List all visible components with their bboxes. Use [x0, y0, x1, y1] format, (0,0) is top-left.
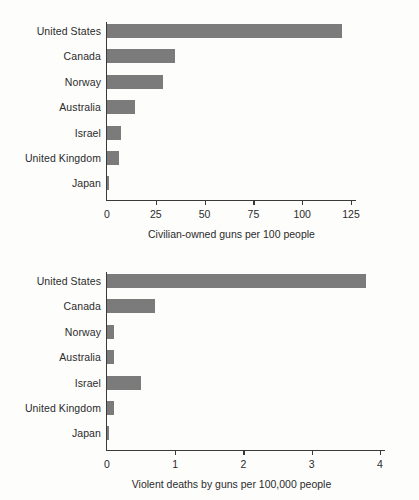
axis-tick: [312, 451, 313, 455]
axis-tick-label: 125: [342, 208, 360, 220]
category-label: United States: [37, 24, 101, 38]
plot-area-top: United StatesCanadaNorwayAustraliaIsrael…: [0, 22, 419, 230]
axis-tick: [253, 201, 254, 205]
axis-tick-label: 0: [104, 458, 110, 470]
axis-tick: [175, 451, 176, 455]
category-label: Japan: [72, 426, 101, 440]
axis-tick: [243, 451, 244, 455]
axis-tick: [380, 451, 381, 455]
bar: [107, 126, 121, 140]
axis-tick-label: 50: [199, 208, 211, 220]
bar: [107, 325, 114, 339]
chart-violent-gun-deaths: United StatesCanadaNorwayAustraliaIsrael…: [0, 250, 419, 500]
category-axis-line-top: [106, 200, 356, 201]
chart-civilian-owned-guns: United StatesCanadaNorwayAustraliaIsrael…: [0, 0, 419, 250]
axis-tick-label: 75: [248, 208, 260, 220]
axis-title-bottom-text: Violent deaths by guns per 100,000 peopl…: [88, 478, 331, 490]
axis-tick-label: 3: [309, 458, 315, 470]
axis-tick-label: 0: [104, 208, 110, 220]
bar: [107, 49, 175, 63]
bar: [107, 75, 163, 89]
axis-tick-label: 100: [293, 208, 311, 220]
bar: [107, 100, 135, 114]
chart-page: { "figure": { "background_color": "#fdfd…: [0, 0, 419, 500]
category-label: Norway: [65, 325, 101, 339]
category-label: Norway: [65, 75, 101, 89]
category-label: Canada: [64, 49, 101, 63]
category-label: Canada: [64, 299, 101, 313]
axis-tick-label: 2: [240, 458, 246, 470]
value-axis-line-bottom: [106, 272, 107, 451]
category-label: Australia: [59, 350, 101, 364]
axis-tick-label: 4: [377, 458, 383, 470]
bar: [107, 401, 114, 415]
category-axis-line-bottom: [106, 450, 385, 451]
value-axis-line-top: [106, 22, 107, 201]
axis-tick-label: 25: [150, 208, 162, 220]
axis-title-top: Civilian-owned guns per 100 people: [0, 228, 419, 240]
axis-tick: [351, 201, 352, 205]
axis-title-bottom: Violent deaths by guns per 100,000 peopl…: [0, 478, 419, 490]
axis-tick-label: 1: [172, 458, 178, 470]
bar: [107, 274, 366, 288]
axis-tick: [205, 201, 206, 205]
bar: [107, 376, 141, 390]
axis-tick: [156, 201, 157, 205]
category-label: United Kingdom: [25, 151, 101, 165]
bar: [107, 151, 119, 165]
category-label: Japan: [72, 176, 101, 190]
axis-title-top-text: Civilian-owned guns per 100 people: [104, 228, 315, 240]
bar: [107, 350, 114, 364]
bar: [107, 299, 155, 313]
category-label: United Kingdom: [25, 401, 101, 415]
category-label: Australia: [59, 100, 101, 114]
plot-area-bottom: United StatesCanadaNorwayAustraliaIsrael…: [0, 272, 419, 480]
bar: [107, 24, 342, 38]
category-label: United States: [37, 274, 101, 288]
category-label: Israel: [75, 376, 101, 390]
axis-tick: [302, 201, 303, 205]
category-label: Israel: [75, 126, 101, 140]
